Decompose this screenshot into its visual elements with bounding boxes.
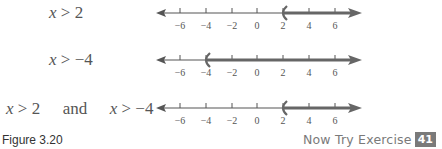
tick-label: −6 xyxy=(175,20,186,31)
inequality-2: x > −4 xyxy=(49,50,93,70)
op: > xyxy=(61,3,75,22)
tick-label: 6 xyxy=(333,67,338,78)
var: x xyxy=(6,99,14,118)
tick-label: 0 xyxy=(255,20,260,31)
conjunction: and xyxy=(63,99,88,118)
op: > xyxy=(18,99,32,118)
number-line-graphic xyxy=(156,99,362,111)
figure-caption: Figure 3.20 xyxy=(2,133,63,147)
op: > xyxy=(61,50,75,69)
var: x xyxy=(49,3,57,22)
value: 2 xyxy=(75,3,84,22)
tick-label: −2 xyxy=(227,20,238,31)
tick-label: 2 xyxy=(281,67,286,78)
tick-label: 6 xyxy=(333,115,338,126)
number-line-graphic xyxy=(156,51,362,63)
tick-label: 2 xyxy=(281,115,286,126)
op: > xyxy=(121,99,135,118)
number-line-2: −6 −4 −2 0 2 4 6 xyxy=(156,51,362,81)
value: −4 xyxy=(135,99,153,118)
tick-label: 4 xyxy=(307,20,312,31)
inequality-1: x > 2 xyxy=(49,3,83,23)
var: x xyxy=(49,50,57,69)
var: x xyxy=(110,99,118,118)
tick-label: −4 xyxy=(201,20,212,31)
tick-label: −6 xyxy=(175,115,186,126)
tick-label: 0 xyxy=(255,115,260,126)
tick-label: 0 xyxy=(255,67,260,78)
tick-label: −4 xyxy=(201,67,212,78)
tick-label: 6 xyxy=(333,20,338,31)
now-try-exercise-link[interactable]: Now Try Exercise 41 xyxy=(303,132,436,147)
tick-label: −4 xyxy=(201,115,212,126)
tick-label: −6 xyxy=(175,67,186,78)
tick-label: 4 xyxy=(307,67,312,78)
tick-label: −2 xyxy=(227,115,238,126)
number-line-graphic xyxy=(156,4,362,16)
now-try-label: Now Try Exercise xyxy=(303,132,412,147)
compound-inequality: x > 2 and x > −4 xyxy=(6,99,153,119)
number-line-3: −6 −4 −2 0 2 4 6 xyxy=(156,99,362,129)
exercise-number-badge: 41 xyxy=(415,132,436,147)
tick-label: −2 xyxy=(227,67,238,78)
number-line-1: −6 −4 −2 0 2 4 6 xyxy=(156,4,362,34)
tick-label: 2 xyxy=(281,20,286,31)
value: 2 xyxy=(32,99,41,118)
value: −4 xyxy=(75,50,93,69)
tick-label: 4 xyxy=(307,115,312,126)
